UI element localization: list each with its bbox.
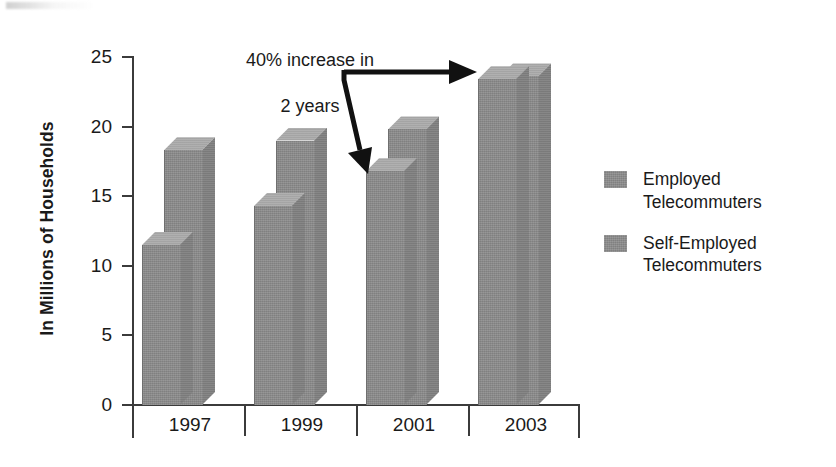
y-tick-label: 0 [66, 395, 112, 414]
legend-item[interactable]: Self-Employed Telecommuters [604, 232, 762, 278]
legend-label-employed: Employed Telecommuters [643, 168, 762, 214]
bar-side-face [404, 158, 417, 405]
y-tick-label: 5 [66, 325, 112, 344]
bar-employed-2001 [366, 171, 404, 405]
legend-swatch-self-employed [604, 235, 627, 252]
y-axis-line [132, 56, 134, 406]
bar-front-face [478, 79, 517, 405]
y-axis-title: In Millions of Households [37, 64, 58, 394]
bar-side-face [202, 137, 215, 405]
y-tick-label: 20 [66, 117, 112, 136]
legend: Employed Telecommuters Self-Employed Tel… [604, 168, 762, 295]
bar-side-face [426, 116, 439, 405]
y-tick-label: 25 [66, 47, 112, 66]
bar-front-face [366, 171, 405, 405]
annotation-line-1: 40% increase in [212, 49, 408, 72]
annotation-label: 40% increase in 2 years [212, 26, 408, 141]
bar-employed-1999 [254, 206, 292, 405]
x-tick-label-2003: 2003 [470, 414, 582, 436]
legend-label-self-employed: Self-Employed Telecommuters [643, 232, 762, 278]
bar-front-face [142, 245, 181, 405]
bar-side-face [180, 232, 193, 405]
y-tick-label: 15 [66, 186, 112, 205]
x-tick-label-2001: 2001 [358, 414, 470, 436]
bar-employed-1997 [142, 245, 180, 405]
bar-side-face [516, 66, 529, 405]
bar-side-face [314, 128, 327, 405]
legend-item[interactable]: Employed Telecommuters [604, 168, 762, 214]
bar-side-face [538, 63, 551, 405]
annotation-line-2: 2 years [212, 95, 408, 118]
chart-figure: In Millions of Households 2520151050 199… [0, 0, 836, 467]
y-tick-label: 10 [66, 256, 112, 275]
bar-front-face [254, 206, 293, 405]
bar-side-face [292, 193, 305, 405]
legend-swatch-employed [604, 171, 627, 188]
x-tick-label-1999: 1999 [246, 414, 358, 436]
x-tick-label-1997: 1997 [134, 414, 246, 436]
bar-employed-2003 [478, 79, 516, 405]
scan-artifact [6, 2, 94, 9]
